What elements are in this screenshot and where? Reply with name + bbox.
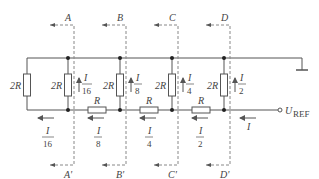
input-current-label: I bbox=[246, 121, 251, 132]
shunt-current-label-a: I 16 bbox=[82, 72, 92, 96]
svg-text:2R: 2R bbox=[155, 80, 166, 91]
cut-label-d-prime: D' bbox=[219, 169, 230, 179]
svg-text:I: I bbox=[45, 125, 50, 136]
shunt-branch-b: 2R bbox=[103, 56, 124, 112]
svg-text:2: 2 bbox=[198, 139, 203, 149]
series-resistor-1: R bbox=[88, 95, 106, 113]
svg-text:16: 16 bbox=[43, 139, 53, 149]
svg-text:I: I bbox=[135, 72, 140, 83]
svg-text:R: R bbox=[93, 95, 100, 106]
bottom-current-label-3: I 4 bbox=[145, 125, 153, 149]
svg-text:I: I bbox=[239, 72, 244, 83]
svg-text:2R: 2R bbox=[51, 80, 62, 91]
uref-terminal: U REF bbox=[278, 105, 310, 119]
svg-text:REF: REF bbox=[293, 109, 310, 119]
svg-text:8: 8 bbox=[135, 86, 140, 96]
cut-label-b-prime: B' bbox=[116, 169, 125, 179]
cut-label-a-prime: A' bbox=[63, 169, 73, 179]
svg-text:R: R bbox=[197, 95, 204, 106]
svg-text:2: 2 bbox=[239, 86, 244, 96]
bottom-current-label-1: I 16 bbox=[42, 125, 54, 149]
svg-text:I: I bbox=[96, 125, 101, 136]
series-resistor-3: R bbox=[192, 95, 210, 113]
bottom-current-label-4: I 2 bbox=[196, 125, 204, 149]
shunt-branch-c: 2R bbox=[155, 56, 176, 112]
svg-text:8: 8 bbox=[96, 139, 101, 149]
resistor-terminal-2r: 2R bbox=[10, 58, 31, 110]
svg-text:4: 4 bbox=[187, 86, 192, 96]
svg-text:16: 16 bbox=[82, 86, 92, 96]
cut-label-d: D bbox=[220, 12, 229, 23]
series-resistor-2: R bbox=[140, 95, 158, 113]
cut-label-b: B bbox=[117, 12, 123, 23]
bottom-current-label-2: I 8 bbox=[94, 125, 102, 149]
svg-text:U: U bbox=[285, 105, 293, 116]
cut-label-c-prime: C' bbox=[168, 169, 178, 179]
top-rail bbox=[27, 58, 308, 70]
shunt-current-label-d: I 2 bbox=[238, 72, 246, 96]
shunt-branch-a: 2R bbox=[51, 56, 72, 112]
shunt-current-label-b: I 8 bbox=[134, 72, 142, 96]
svg-text:I: I bbox=[83, 72, 88, 83]
svg-text:2R: 2R bbox=[207, 80, 218, 91]
shunt-branch-d: 2R bbox=[207, 56, 228, 112]
svg-text:I: I bbox=[187, 72, 192, 83]
r2r-ladder-diagram: 2R 2R 2R 2R 2R R R bbox=[0, 0, 319, 179]
svg-text:I: I bbox=[198, 125, 203, 136]
svg-text:4: 4 bbox=[147, 139, 152, 149]
cut-label-a: A bbox=[64, 12, 72, 23]
svg-text:R: R bbox=[145, 95, 152, 106]
svg-text:2R: 2R bbox=[10, 80, 21, 91]
shunt-current-label-c: I 4 bbox=[186, 72, 194, 96]
svg-text:I: I bbox=[147, 125, 152, 136]
cut-label-c: C bbox=[169, 12, 176, 23]
svg-text:2R: 2R bbox=[103, 80, 114, 91]
